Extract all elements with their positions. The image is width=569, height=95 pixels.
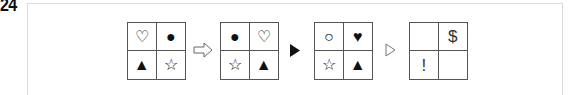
grid-1-cell-top-left: ♡ [128,23,157,51]
symbol-grid-1: ♡ ● ▲ ☆ [127,22,186,80]
grid-3-cell-bottom-right: ▲ [344,51,373,79]
solid-triangle-right-icon [290,44,300,57]
grid-4-cell-bottom-left: ! [410,51,439,79]
question-number: 24 [0,0,16,16]
grid-4-cell-top-right: $ [439,23,468,51]
symbol-grid-3: ○ ♥ ☆ ▲ [314,22,373,80]
outline-block-arrow-right-icon [193,42,213,58]
grid-2-cell-bottom-left: ☆ [221,51,250,79]
grid-3-cell-bottom-left: ☆ [315,51,344,79]
symbol-grid-4: $ ! [409,22,468,80]
grid-1-cell-bottom-left: ▲ [128,51,157,79]
grid-2-cell-bottom-right: ▲ [250,51,279,79]
grid-4-cell-bottom-right [439,51,468,79]
grid-2-cell-top-right: ♡ [250,23,279,51]
grid-3-cell-top-right: ♥ [344,23,373,51]
grid-2-cell-top-left: ● [221,23,250,51]
symbol-grid-2: ● ♡ ☆ ▲ [220,22,279,80]
grid-4-cell-top-left [410,23,439,51]
grid-1-cell-bottom-right: ☆ [157,51,186,79]
grid-1-cell-top-right: ● [157,23,186,51]
grid-3-cell-top-left: ○ [315,23,344,51]
outline-triangle-right-icon [385,43,396,57]
